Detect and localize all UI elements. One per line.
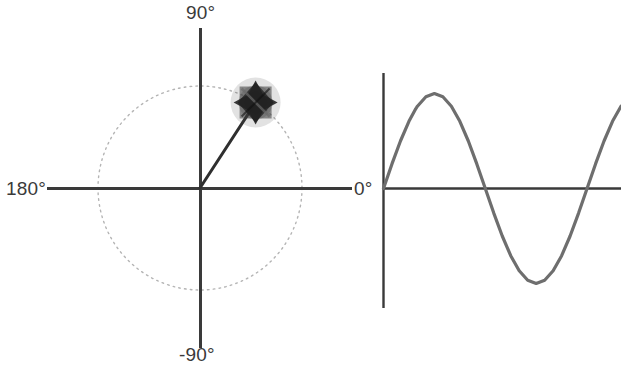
axis-label-90-degrees: 90° (186, 2, 215, 24)
figure-background (0, 0, 621, 372)
page-caption-fragment (0, 364, 621, 372)
axis-label-minus-90-degrees: -90° (179, 344, 215, 366)
axis-label-180-degrees: 180° (6, 178, 46, 200)
phasor-tip-marker (234, 81, 278, 125)
phasor-and-sine-figure (0, 0, 621, 372)
axis-label-0-degrees: 0° (354, 178, 373, 200)
